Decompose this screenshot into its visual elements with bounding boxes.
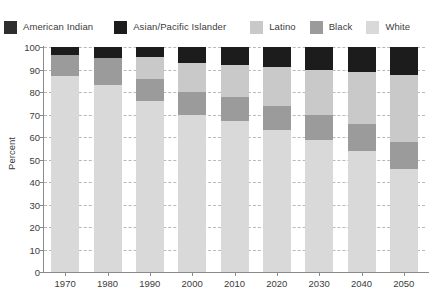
bar-segment-asian-pacific-islander — [305, 47, 333, 70]
bar-1980 — [94, 47, 122, 272]
legend-item-latino: Latino — [250, 21, 295, 34]
legend-item-white: White — [366, 21, 410, 34]
y-tick-label: 30 — [0, 199, 40, 210]
legend-label-black: Black — [329, 22, 353, 32]
y-tick-label: 40 — [0, 177, 40, 188]
y-tick-label: 80 — [0, 87, 40, 98]
bar-1970 — [51, 47, 79, 272]
bar-2020 — [263, 47, 291, 272]
x-tick-mark — [108, 272, 109, 276]
x-tick-mark — [192, 272, 193, 276]
y-tick-label: 10 — [0, 244, 40, 255]
bar-2000 — [178, 47, 206, 272]
x-tick-mark — [277, 272, 278, 276]
bar-segment-white — [305, 140, 333, 272]
bar-segment-black — [136, 79, 164, 102]
bar-2030 — [305, 47, 333, 272]
bar-segment-asian-pacific-islander — [51, 47, 79, 55]
x-tick-mark — [150, 272, 151, 276]
y-tick-label: 50 — [0, 154, 40, 165]
y-tick-label: 0 — [0, 267, 40, 278]
bar-2050 — [390, 47, 418, 272]
y-axis-tick-labels: 0102030405060708090100 — [0, 0, 40, 295]
bar-segment-latino — [390, 75, 418, 141]
bar-segment-asian-pacific-islander — [390, 47, 418, 75]
legend-item-asian-pacific-islander: Asian/Pacific Islander — [114, 21, 226, 34]
bar-segment-black — [51, 55, 79, 76]
bar-segment-asian-pacific-islander — [178, 47, 206, 63]
y-tick-label: 90 — [0, 64, 40, 75]
bar-segment-black — [305, 115, 333, 141]
bar-segment-black — [178, 92, 206, 115]
bar-segment-latino — [348, 72, 376, 124]
bar-2010 — [221, 47, 249, 272]
bar-segment-asian-pacific-islander — [136, 47, 164, 57]
stacked-bar-chart: American Indian Asian/Pacific Islander L… — [0, 0, 433, 295]
bar-segment-latino — [221, 65, 249, 97]
bar-segment-white — [178, 115, 206, 273]
y-tick-label: 20 — [0, 222, 40, 233]
bar-1990 — [136, 47, 164, 272]
bar-segment-black — [390, 142, 418, 169]
legend-swatch-black — [310, 21, 323, 34]
legend-swatch-asian-pacific-islander — [114, 21, 127, 34]
bar-segment-white — [136, 101, 164, 272]
bar-segment-black — [94, 58, 122, 85]
bar-segment-asian-pacific-islander — [94, 47, 122, 58]
bar-segment-asian-pacific-islander — [221, 47, 249, 65]
bar-segment-asian-pacific-islander — [348, 47, 376, 72]
x-tick-mark — [65, 272, 66, 276]
bar-segment-white — [94, 85, 122, 272]
bar-segment-latino — [136, 57, 164, 78]
bar-segment-white — [263, 130, 291, 272]
x-tick-mark — [235, 272, 236, 276]
bar-segment-black — [263, 106, 291, 131]
x-tick-mark — [404, 272, 405, 276]
bar-segment-black — [348, 124, 376, 151]
chart-legend: American Indian Asian/Pacific Islander L… — [0, 16, 433, 38]
bar-2040 — [348, 47, 376, 272]
bar-segment-white — [51, 76, 79, 272]
legend-label-asian-pacific-islander: Asian/Pacific Islander — [133, 22, 226, 32]
x-tick-label-2050: 2050 — [379, 278, 429, 289]
bar-segment-white — [348, 151, 376, 273]
y-tick-label: 100 — [0, 42, 40, 53]
bar-segment-latino — [263, 67, 291, 105]
legend-label-white: White — [385, 22, 410, 32]
bar-segment-white — [221, 121, 249, 272]
legend-swatch-latino — [250, 21, 263, 34]
bar-segment-latino — [305, 70, 333, 115]
x-tick-mark — [362, 272, 363, 276]
legend-item-black: Black — [310, 21, 353, 34]
bar-segment-asian-pacific-islander — [263, 47, 291, 67]
legend-swatch-white — [366, 21, 379, 34]
y-tick-label: 60 — [0, 132, 40, 143]
bar-segment-white — [390, 169, 418, 273]
legend-label-latino: Latino — [269, 22, 295, 32]
x-tick-mark — [319, 272, 320, 276]
bar-segment-black — [221, 97, 249, 122]
y-tick-label: 70 — [0, 109, 40, 120]
plot-area — [44, 47, 425, 272]
bar-segment-latino — [178, 63, 206, 92]
